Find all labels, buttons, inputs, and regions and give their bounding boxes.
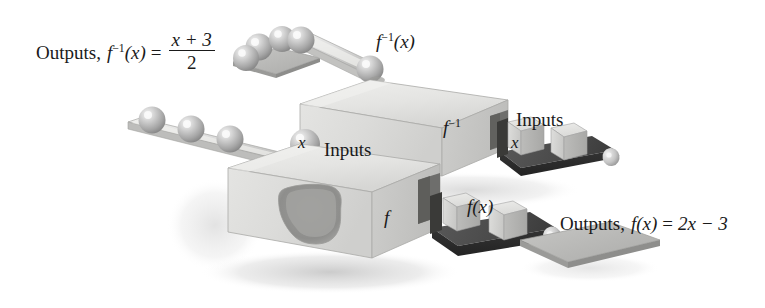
function-machine-figure: Outputs,f−1(x)= x + 3 2 f−1(x) f−1 Input… bbox=[0, 0, 765, 308]
f-of-x-conveyor-label: f(x) bbox=[467, 197, 493, 216]
outputs-inverse-arg: (x) bbox=[125, 42, 146, 63]
inputs-label-upper: Inputs bbox=[516, 110, 564, 129]
fraction-denominator: 2 bbox=[169, 51, 215, 72]
f-box-label: f bbox=[384, 208, 389, 227]
f-inverse-box-exponent: −1 bbox=[448, 117, 461, 130]
f-inverse-chute-exponent: −1 bbox=[381, 31, 394, 44]
fraction-numerator: x + 3 bbox=[169, 30, 215, 51]
outputs-inverse-prefix: Outputs, bbox=[36, 42, 101, 63]
outputs-f-arg: (x) bbox=[636, 213, 657, 234]
outputs-inverse-formula: Outputs,f−1(x)= x + 3 2 bbox=[36, 30, 217, 72]
fx-conveyor-arg: (x) bbox=[472, 196, 493, 217]
outputs-f-prefix: Outputs, bbox=[560, 213, 625, 234]
x-label-on-sphere: x bbox=[298, 134, 306, 151]
outputs-f-formula: Outputs,f(x)=2x − 3 bbox=[560, 214, 728, 233]
outputs-inverse-exponent: −1 bbox=[112, 42, 125, 55]
outputs-f-rhs: 2x − 3 bbox=[678, 213, 728, 234]
outputs-inverse-fraction: x + 3 2 bbox=[169, 30, 215, 72]
f-inverse-output-chute bbox=[233, 26, 385, 84]
f-box-fn: f bbox=[384, 207, 389, 228]
f-inverse-box-label: f−1 bbox=[443, 118, 461, 137]
outputs-inverse-equals: = bbox=[151, 42, 162, 63]
x-label-on-cube: x bbox=[511, 134, 519, 151]
outputs-f-equals: = bbox=[662, 213, 673, 234]
inputs-label-lower: Inputs bbox=[324, 140, 372, 159]
f-inverse-of-x-chute-label: f−1(x) bbox=[376, 32, 415, 51]
f-inverse-chute-arg: (x) bbox=[394, 31, 415, 52]
